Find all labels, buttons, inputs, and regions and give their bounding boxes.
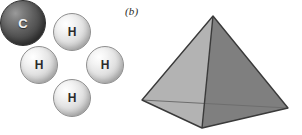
hydrogen-atom-top-label: H <box>54 26 90 38</box>
panel-a-methane-model: (a) H H C H H <box>0 0 151 135</box>
figure-container: (a) H H C H H (b) <box>0 0 302 135</box>
hydrogen-atom-left: H <box>20 46 58 84</box>
tetrahedron-graphic <box>140 0 302 135</box>
panel-b-label: (b) <box>125 5 138 17</box>
panel-b-tetrahedron: (b) <box>140 0 302 135</box>
hydrogen-atom-right: H <box>86 46 124 84</box>
carbon-atom-label: C <box>1 17 45 30</box>
hydrogen-atom-top: H <box>53 13 91 51</box>
hydrogen-atom-bottom-label: H <box>54 92 90 104</box>
carbon-atom-center: C <box>0 0 46 46</box>
hydrogen-atom-left-label: H <box>21 59 57 71</box>
tetrahedron-left-front-face <box>142 16 213 128</box>
hydrogen-atom-bottom: H <box>53 79 91 117</box>
hydrogen-atom-right-label: H <box>87 59 123 71</box>
